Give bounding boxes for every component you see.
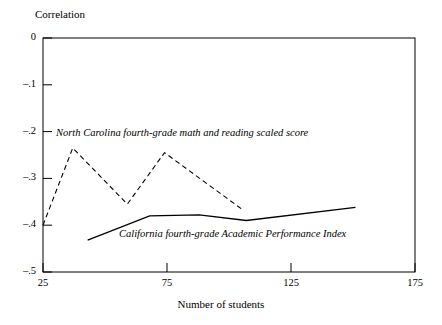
annotation-california: California fourth-grade Academic Perform… bbox=[119, 228, 346, 239]
x-tick-label-25: 25 bbox=[23, 277, 63, 288]
x-tick-label-75: 75 bbox=[147, 277, 187, 288]
x-axis-title: Number of students bbox=[0, 298, 442, 310]
correlation-chart-figure: Correlation 0 –.1 –.2 –.3 –.4 –.5 bbox=[0, 0, 442, 325]
x-tick-label-175: 175 bbox=[395, 277, 435, 288]
y-tick-label-2: –.2 bbox=[6, 125, 36, 136]
x-axis-ticks bbox=[43, 263, 415, 272]
y-tick-label-1: –.1 bbox=[6, 78, 36, 89]
y-tick-label-0: 0 bbox=[6, 31, 36, 42]
series-line-north-carolina bbox=[43, 148, 241, 225]
y-tick-label-3: –.3 bbox=[6, 171, 36, 182]
y-tick-label-5: –.5 bbox=[6, 265, 36, 276]
plot-area bbox=[0, 0, 442, 325]
annotation-north-carolina: North Carolina fourth-grade math and rea… bbox=[56, 127, 308, 138]
y-axis-ticks bbox=[43, 38, 52, 272]
x-tick-label-125: 125 bbox=[271, 277, 311, 288]
y-tick-label-4: –.4 bbox=[6, 218, 36, 229]
